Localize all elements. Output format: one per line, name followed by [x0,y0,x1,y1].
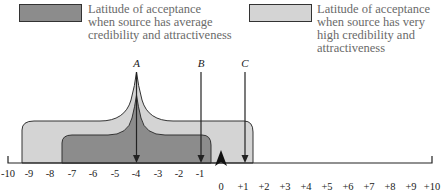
svg-text:-8: -8 [46,168,55,179]
marker-c-label: C [241,57,249,69]
svg-text:+4: +4 [300,181,312,192]
svg-text:-9: -9 [25,168,34,179]
positive-tick-labels: 0 +1 +2 +3 +4 +5 +6 +7 +8 +9 +10 [218,181,440,192]
marker-a-label: A [132,57,140,69]
svg-text:-4: -4 [132,168,141,179]
svg-text:-5: -5 [111,168,120,179]
svg-text:+2: +2 [258,181,269,192]
svg-text:+1: +1 [237,181,248,192]
svg-text:-1: -1 [196,168,205,179]
latitude-diagram: A B C -10 -9 -8 -7 -6 -5 -4 -3 -2 -1 0 +… [0,0,442,194]
svg-text:+3: +3 [279,181,290,192]
svg-text:+8: +8 [384,181,395,192]
negative-tick-labels: -10 -9 -8 -7 -6 -5 -4 -3 -2 -1 [1,168,204,179]
svg-text:+6: +6 [342,181,353,192]
svg-text:+7: +7 [363,181,374,192]
svg-text:-6: -6 [89,168,98,179]
svg-text:-7: -7 [68,168,77,179]
marker-b-label: B [198,57,205,69]
svg-text:-10: -10 [1,168,15,179]
svg-text:-2: -2 [175,168,184,179]
svg-text:0: 0 [218,181,223,192]
svg-text:-3: -3 [154,168,163,179]
svg-text:+10: +10 [424,181,440,192]
svg-text:+9: +9 [405,181,416,192]
svg-text:+5: +5 [321,181,332,192]
